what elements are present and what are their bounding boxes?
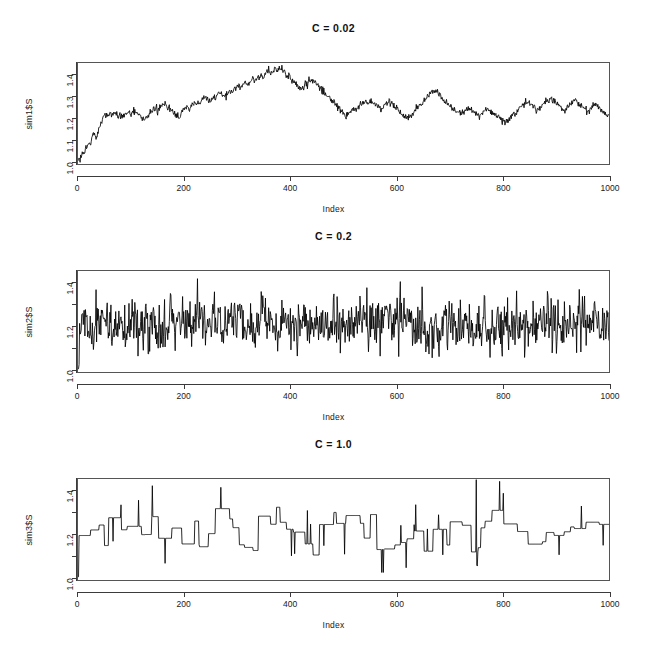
y-axis: 1.01.21.4 — [0, 270, 77, 373]
x-axis-tick-label: 200 — [177, 599, 191, 609]
data-series-line — [78, 279, 609, 369]
plot-area — [77, 478, 610, 581]
x-axis-tick-label: 400 — [283, 183, 297, 193]
y-axis-tick-label: 1.2 — [65, 534, 75, 546]
plot-panel-3: C = 1.0sim3$S1.01.21.402004006008001000I… — [0, 438, 667, 649]
plot-area — [77, 270, 610, 373]
panel-title: C = 1.0 — [0, 438, 667, 450]
x-axis-tick — [77, 384, 78, 389]
x-axis-tick — [184, 592, 185, 597]
data-series-line — [78, 65, 609, 162]
x-axis-tick — [77, 176, 78, 181]
x-axis-tick-label: 1000 — [601, 599, 620, 609]
y-axis-tick-label: 1.0 — [65, 370, 75, 382]
x-axis-tick-label: 600 — [390, 391, 404, 401]
x-axis-tick-label: 0 — [75, 391, 80, 401]
x-axis-tick — [77, 592, 78, 597]
x-axis-spine — [77, 384, 610, 385]
x-axis-tick-label: 0 — [75, 599, 80, 609]
x-axis-tick-label: 1000 — [601, 391, 620, 401]
x-axis-tick-label: 200 — [177, 183, 191, 193]
x-axis-tick-label: 400 — [283, 599, 297, 609]
x-axis-tick — [397, 592, 398, 597]
y-axis-tick-label: 1.2 — [65, 118, 75, 130]
panel-title: C = 0.02 — [0, 22, 667, 34]
x-axis-tick — [290, 384, 291, 389]
x-axis-tick — [610, 384, 611, 389]
x-axis-tick — [503, 384, 504, 389]
x-axis-tick-label: 600 — [390, 183, 404, 193]
x-axis-tick-label: 800 — [496, 599, 510, 609]
figure-canvas: C = 0.02sim1$S1.01.11.21.31.402004006008… — [0, 0, 667, 649]
x-axis-title: Index — [0, 620, 667, 630]
x-axis-tick — [503, 176, 504, 181]
x-axis-title: Index — [0, 204, 667, 214]
x-axis-tick — [184, 176, 185, 181]
y-axis-tick-label: 1.4 — [65, 282, 75, 294]
x-axis-tick — [610, 176, 611, 181]
y-axis-tick-label: 1.4 — [65, 490, 75, 502]
x-axis: 02004006008001000 — [77, 581, 610, 611]
x-axis-tick-label: 0 — [75, 183, 80, 193]
x-axis-tick — [184, 384, 185, 389]
series-svg — [78, 479, 609, 580]
data-series-line — [78, 480, 609, 577]
x-axis: 02004006008001000 — [77, 165, 610, 195]
y-axis-tick-label: 1.4 — [65, 74, 75, 86]
y-axis-tick-label: 1.0 — [65, 578, 75, 590]
x-axis-tick-label: 200 — [177, 391, 191, 401]
panel-title: C = 0.2 — [0, 230, 667, 242]
x-axis-spine — [77, 592, 610, 593]
series-svg — [78, 63, 609, 164]
y-axis-tick-label: 1.2 — [65, 326, 75, 338]
x-axis-tick — [503, 592, 504, 597]
x-axis-tick — [290, 592, 291, 597]
y-axis-tick-label: 1.1 — [65, 140, 75, 152]
x-axis-tick-label: 600 — [390, 599, 404, 609]
x-axis-tick-label: 400 — [283, 391, 297, 401]
x-axis-tick — [397, 176, 398, 181]
x-axis-tick — [610, 592, 611, 597]
x-axis-tick-label: 800 — [496, 183, 510, 193]
x-axis-tick — [290, 176, 291, 181]
y-axis-tick-label: 1.3 — [65, 96, 75, 108]
y-axis: 1.01.21.4 — [0, 478, 77, 581]
x-axis-tick — [397, 384, 398, 389]
y-axis-tick-label: 1.0 — [65, 162, 75, 174]
x-axis-tick-label: 800 — [496, 391, 510, 401]
y-axis: 1.01.11.21.31.4 — [0, 62, 77, 165]
plot-area — [77, 62, 610, 165]
plot-panel-1: C = 0.02sim1$S1.01.11.21.31.402004006008… — [0, 22, 667, 230]
x-axis-tick-label: 1000 — [601, 183, 620, 193]
x-axis: 02004006008001000 — [77, 373, 610, 403]
x-axis-title: Index — [0, 412, 667, 422]
series-svg — [78, 271, 609, 372]
plot-panel-2: C = 0.2sim2$S1.01.21.402004006008001000I… — [0, 230, 667, 438]
x-axis-spine — [77, 176, 610, 177]
